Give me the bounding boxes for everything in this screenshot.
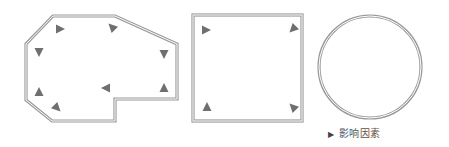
triangle-marker-icon: [160, 50, 169, 59]
triangle-marker-icon: [203, 102, 212, 111]
caption-text: 影响因素: [339, 128, 381, 139]
triangle-marker-icon: [56, 25, 65, 34]
triangle-marker-icon: [51, 102, 64, 115]
room-shapes-diagram: [0, 0, 449, 147]
triangle-marker-icon: [286, 100, 299, 113]
triangle-marker-icon: [101, 84, 110, 93]
triangle-marker-icon: [202, 26, 211, 35]
caption-arrow-icon: ▶: [328, 130, 335, 139]
triangle-marker-icon: [35, 48, 44, 57]
caption: ▶影响因素: [328, 125, 381, 140]
circle-room: [319, 16, 421, 118]
triangle-marker-icon: [286, 23, 299, 36]
triangle-marker-icon: [160, 83, 169, 92]
triangle-marker-icon: [35, 87, 44, 96]
square-room: [193, 15, 302, 121]
irregular-polygon-room: [26, 16, 177, 121]
triangle-marker-icon: [105, 20, 118, 33]
